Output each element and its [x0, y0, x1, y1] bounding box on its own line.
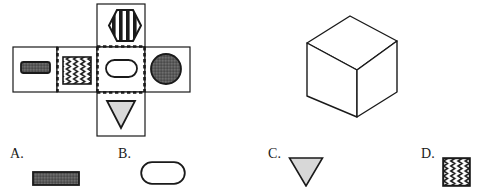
option-a-shape-filled-rectangle[interactable] [32, 171, 80, 186]
question-canvas: A. B. C. D. [0, 0, 483, 194]
option-b-shape-rounded-pill[interactable] [140, 161, 186, 185]
option-a-label: A. [10, 147, 24, 161]
cube-net-diagram [0, 0, 200, 140]
net-face-circle [151, 54, 181, 84]
net-face-zigzag-square [63, 57, 91, 84]
net-face-left-bar [21, 62, 50, 73]
3d-cube-diagram [282, 8, 407, 128]
net-face-top [109, 10, 141, 41]
option-d-label: D. [421, 147, 435, 161]
net-face-center-pill [106, 60, 137, 77]
option-c-shape-down-triangle[interactable] [288, 156, 324, 187]
option-c-label: C. [268, 147, 281, 161]
option-b-label: B. [118, 147, 131, 161]
option-d-shape-zigzag-square[interactable] [442, 157, 471, 187]
